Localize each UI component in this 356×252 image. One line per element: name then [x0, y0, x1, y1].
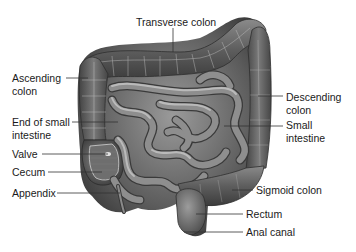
label-valve: Valve	[12, 148, 38, 161]
label-appendix: Appendix	[12, 187, 56, 200]
label-anal-canal: Anal canal	[246, 226, 295, 239]
label-text: Cecum	[12, 166, 45, 179]
label-text: Descending	[286, 91, 341, 104]
label-text: intestine	[12, 129, 70, 142]
label-text: colon	[12, 85, 61, 98]
label-small-intestine: Small intestine	[286, 119, 325, 144]
label-descending-colon: Descending colon	[286, 91, 341, 116]
rectum-shape	[176, 189, 206, 235]
label-text: Valve	[12, 148, 38, 161]
label-sigmoid-colon: Sigmoid colon	[256, 184, 322, 197]
label-transverse-colon: Transverse colon	[136, 16, 216, 29]
intestine-diagram: Transverse colon Ascending colon End of …	[0, 0, 356, 252]
label-text: Anal canal	[246, 226, 295, 239]
label-text: intestine	[286, 132, 325, 145]
descending-colon-shape	[246, 27, 271, 170]
label-text: Sigmoid colon	[256, 184, 322, 197]
label-rectum: Rectum	[246, 208, 282, 221]
label-text: Ascending	[12, 72, 61, 85]
label-end-of-small-intestine: End of small intestine	[12, 116, 70, 141]
label-text: Transverse colon	[136, 16, 216, 29]
label-ascending-colon: Ascending colon	[12, 72, 61, 97]
label-text: colon	[286, 104, 341, 117]
label-text: Small	[286, 119, 325, 132]
label-text: End of small	[12, 116, 70, 129]
label-text: Rectum	[246, 208, 282, 221]
label-text: Appendix	[12, 187, 56, 200]
label-cecum: Cecum	[12, 166, 45, 179]
ascending-colon-shape	[79, 57, 108, 140]
